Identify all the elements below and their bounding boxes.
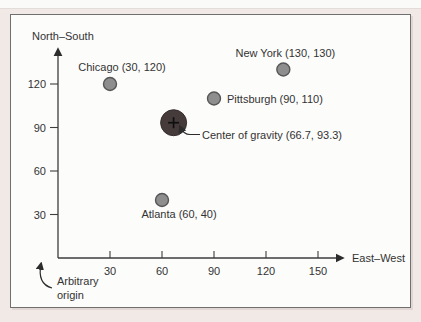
x-axis-tick-label: 60 [156,265,168,277]
x-axis-tick-label: 90 [208,265,220,277]
origin-pointer-arrow [40,264,52,288]
x-axis-tick-label: 120 [257,265,275,277]
arbitrary-origin-line1: Arbitrary [57,274,99,288]
arbitrary-origin-line2: origin [57,288,99,302]
arbitrary-origin-label: Arbitrary origin [57,274,99,302]
x-axis-tick-label: 30 [104,265,116,277]
city-point-label: New York (130, 130) [235,47,335,59]
city-point-label: Chicago (30, 120) [78,61,165,73]
x-axis-title: East–West [352,251,405,265]
center-of-gravity-label: Center of gravity (66.7, 93.3) [202,128,342,142]
city-point [277,63,290,76]
y-axis-tick-label: 120 [28,78,46,90]
x-axis-tick-label: 150 [309,265,327,277]
city-point [156,194,169,207]
y-axis-tick-label: 60 [34,165,46,177]
y-axis-tick-label: 30 [34,209,46,221]
y-axis-title: North–South [32,29,94,43]
city-point-label: Atlanta (60, 40) [141,208,216,220]
city-point [104,78,117,91]
city-point-label: Pittsburgh (90, 110) [227,93,323,105]
city-point [208,92,221,105]
y-axis-tick-label: 90 [34,122,46,134]
